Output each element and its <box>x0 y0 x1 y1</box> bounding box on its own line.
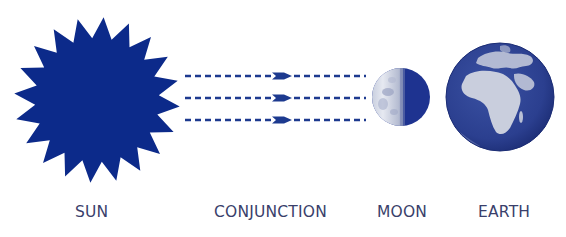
light-rays <box>185 73 366 124</box>
conjunction-diagram: SUN CONJUNCTION MOON EARTH <box>0 0 566 237</box>
arrowhead-icon <box>272 73 292 80</box>
ray-top <box>185 73 366 80</box>
arrowhead-icon <box>272 117 292 124</box>
moon-icon <box>372 68 430 126</box>
conjunction-label: CONJUNCTION <box>214 202 327 222</box>
earth-icon <box>446 43 554 151</box>
ray-bottom <box>185 117 366 124</box>
ray-middle <box>185 95 366 102</box>
earth-label: EARTH <box>478 202 530 222</box>
arrowhead-icon <box>272 95 292 102</box>
sun-icon <box>14 17 179 182</box>
sun-label: SUN <box>75 202 108 222</box>
moon-label: MOON <box>377 202 427 222</box>
